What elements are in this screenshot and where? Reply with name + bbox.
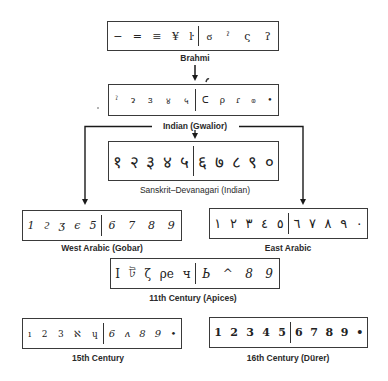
glyph: ρ [220,95,225,105]
arrow-gwalior-to-sanskrit [192,133,198,139]
glyph: ९ [248,150,257,173]
node-11th-century: I ট ζ ρe ч Ь ^ 8 9 [110,258,280,289]
glyph: २ [130,150,139,173]
brahmi-glyphs-1-5: − = ≡ ¥ ŀ [108,22,198,50]
glyph: ¥ [172,30,179,43]
glyph: ٥ [277,216,284,231]
east-arabic-glyphs-1-5: ١ ٢ ٣ ٤ ٥ [210,209,288,238]
label-indian-gwalior: Indian (Gwalior) [163,121,227,131]
east-arabic-glyphs-6-0: ٦ ٧ ٨ ٩ ٠ [289,209,367,238]
glyph: Ь [202,267,210,281]
glyph: ٢ [230,216,237,231]
apices-glyphs-6-9: Ь ^ 8 9 [196,259,279,288]
glyph: I [115,267,120,281]
label-east-arabic: East Arabic [265,243,311,253]
node-west-arabic: 1 ϩ ʒ ϵ 5 6 7 8 9 [22,210,182,241]
glyph: 3 [246,326,254,339]
glyph: 9 [168,219,175,232]
glyph: ʒ [59,219,65,232]
glyph: ٦ [293,216,300,231]
glyph: 3 [58,329,64,339]
gwalior-glyphs-6-0: ᑕ ρ ɾ ၜ • [196,85,278,115]
glyph: ς [244,30,250,43]
glyph: 4 [262,326,270,339]
glyph: ४ [166,94,171,107]
label-15th-century: 15th Century [72,353,124,363]
west-arabic-glyphs-1-5: 1 ϩ ʒ ϵ 5 [23,211,101,240]
glyph: ८ [232,150,241,173]
glyph: 2 [230,326,238,339]
glyph: ٣ [245,216,252,231]
glyph: ٤ [261,216,268,231]
glyph: ϭ [206,30,212,43]
glyph: ᑕ [202,95,209,105]
glyph: ʔ [265,30,271,43]
glyph: ϵ [74,219,80,232]
glyph: ʌ [124,328,130,339]
glyph: 1 [28,219,35,232]
label-sanskrit-devanagari: Sanskrit–Devanagari (Indian) [140,185,250,195]
glyph: − [113,30,122,43]
glyph: ၜ [251,94,256,107]
glyph: 8 [139,328,145,339]
glyph: ٩ [340,216,347,231]
glyph: ɂ [131,95,135,105]
15th-century-glyphs-1-5: ı 2 3 ℵ ɥ [23,319,103,348]
glyph: १ [113,150,122,173]
glyph: ˀ [115,95,118,105]
glyph: ४ [163,150,172,173]
glyph: ६ [198,150,207,173]
node-16th-century: 1 2 3 4 5 6 7 8 9 • [209,317,368,348]
glyph: ч [183,267,191,281]
brahmi-glyphs-6-9: ϭ ˀ ς ʔ [199,22,278,50]
glyph: 6 [109,328,115,339]
west-arabic-glyphs-6-9: 6 7 8 9 [102,211,181,240]
glyph: ٠ [356,216,363,231]
glyph: 8 [148,219,155,232]
glyph: 9 [155,328,161,339]
sanskrit-glyphs-6-0: ६ ७ ८ ९ ० [194,142,278,180]
glyph: ^ [223,267,233,281]
glyph: 9 [341,326,349,339]
glyph: 1 [214,326,222,339]
glyph: 6 [295,326,303,339]
glyph: ٨ [325,216,332,231]
glyph: ≡ [152,30,161,43]
apices-glyphs-1-5: I ট ζ ρe ч [111,259,195,288]
glyph: 5 [278,326,286,339]
node-east-arabic: ١ ٢ ٣ ٤ ٥ ٦ ٧ ٨ ٩ ٠ [209,208,368,239]
glyph: 5 [89,219,96,232]
gwalior-glyphs-1-5: ˀ ɂ ɜ ४ ५ [109,85,195,115]
node-indian-gwalior: ˀ ɂ ɜ ४ ५ ᑕ ρ ɾ ၜ • [108,84,279,116]
glyph: 7 [310,326,318,339]
glyph: ٧ [309,216,316,231]
glyph: ϩ [44,219,50,232]
node-sanskrit-devanagari: १ २ ३ ४ ५ ६ ७ ८ ९ ० [108,141,279,181]
glyph: 8 [245,267,253,281]
glyph: 9 [265,267,273,281]
label-brahmi: Brahmi [180,53,209,63]
glyph: ५ [180,150,189,173]
label-west-arabic: West Arabic (Gobar) [61,243,143,253]
label-11th-century: 11th Century (Apices) [149,293,236,303]
16th-century-glyphs-6-0: 6 7 8 9 • [291,318,367,347]
glyph: ɜ [148,95,153,105]
glyph: ١ [214,216,221,231]
glyph: ० [265,150,274,173]
node-brahmi: − = ≡ ¥ ŀ ϭ ˀ ς ʔ [107,21,279,51]
glyph: ρe [160,267,174,281]
glyph: 8 [326,326,334,339]
glyph: ŀ [189,30,193,43]
glyph: 7 [128,219,135,232]
glyph: ট [129,264,136,284]
glyph: ˀ [227,30,230,43]
glyph: ℵ [74,329,81,339]
glyph: ५ [184,94,189,107]
glyph: = [133,30,142,43]
15th-century-glyphs-6-0: 6 ʌ 8 9 • [104,319,181,348]
glyph: ζ [145,267,152,281]
label-16th-century: 16th Century (Dürer) [247,353,330,363]
glyph: ३ [146,150,155,173]
glyph: ı [28,329,31,339]
node-15th-century: ı 2 3 ℵ ɥ 6 ʌ 8 9 • [22,318,182,349]
